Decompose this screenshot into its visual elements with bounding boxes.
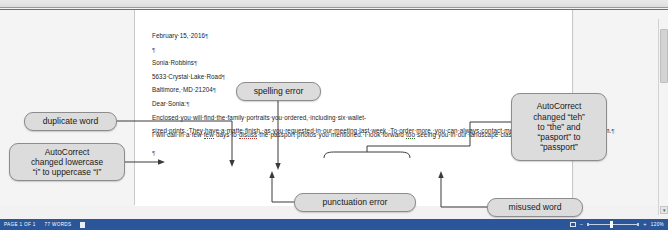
document-page[interactable]: February·15,·2016¶ ¶ Sonia·Robbins¶ 5633… (135, 10, 573, 206)
screenshot-root: February·15,·2016¶ ¶ Sonia·Robbins¶ 5633… (0, 0, 668, 230)
page-indicator[interactable]: PAGE 1 OF 1 (4, 222, 36, 227)
misspelled-word-text: disuss (239, 131, 257, 139)
pilcrow-icon: ¶ (213, 86, 216, 93)
callout-lowercase-i-line-1: AutoCorrect (31, 147, 103, 157)
callout-autocorrect-lowercase-i-body: AutoCorrect changed lowercase “i” to upp… (31, 147, 103, 178)
callout-spelling-error-label: spelling error (254, 86, 304, 96)
doc-paragraph-2: I·will·call·in·a·few·few·days·to·disuss·… (152, 128, 560, 142)
doc-paragraph-1: Enclosed·you·will·find·the·family·portra… (152, 111, 560, 125)
callout-duplicate-word-label: duplicate word (43, 116, 98, 126)
doc-paragraph-2-part-a: I·will·call·in·a·few· (152, 131, 204, 138)
pilcrow-icon: ¶ (222, 73, 225, 80)
zoom-in-button[interactable]: + (643, 222, 647, 227)
doc-line-recipient-name-text: Sonia·Robbins (152, 59, 194, 66)
status-bar-left-group: PAGE 1 OF 1 77 WORDS (0, 222, 85, 228)
pilcrow-icon: ¶ (152, 149, 155, 156)
doc-line-street: 5633·Crystal·Lake·Road¶ (152, 70, 566, 84)
doc-line-city-state-zip-text: Baltimore,·MD·21204 (152, 86, 213, 93)
scrollbar-thumb[interactable] (660, 29, 668, 83)
doc-line-recipient-name: Sonia·Robbins¶ (152, 56, 566, 70)
status-bar-right-group: − + 120% (570, 222, 668, 227)
doc-paragraph-2-part-c: ·the·passport·photos·you·mentioned.·I·lo… (257, 131, 406, 138)
zoom-slider-tick-left (587, 223, 589, 226)
callout-punctuation-error: punctuation error (294, 193, 416, 212)
doc-line-salutation-text: Dear·Sonia: (152, 100, 186, 107)
duplicate-word-text: few (204, 131, 214, 139)
doc-line-date-text: February·15,·2016 (152, 32, 205, 39)
callout-spelling-error: spelling error (236, 82, 321, 101)
pilcrow-icon: ¶ (205, 32, 208, 39)
doc-line-salutation: Dear·Sonia:¶ (152, 97, 566, 111)
doc-paragraph-2-part-b: ·days·to· (214, 131, 239, 138)
callout-autocorrect-teh-pasport: AutoCorrect changed “teh” to “the” and “… (511, 93, 607, 161)
word-count-indicator[interactable]: 77 WORDS (45, 222, 72, 227)
callout-punctuation-error-label: punctuation error (323, 197, 388, 207)
window-top-band (0, 0, 668, 8)
callout-autocorrect-line-2: changed “teh” (533, 112, 585, 122)
callout-autocorrect-teh-pasport-body: AutoCorrect changed “teh” to “the” and “… (533, 101, 585, 152)
misused-word-text: too (406, 131, 415, 139)
status-bar: PAGE 1 OF 1 77 WORDS − + 120% (0, 219, 668, 230)
reading-view-icon[interactable] (570, 222, 576, 227)
doc-line-city-state-zip: Baltimore,·MD·21204¶ (152, 83, 566, 97)
callout-autocorrect-line-4: “pasport” to (533, 132, 585, 142)
doc-line-date: February·15,·2016¶ (152, 29, 566, 43)
document-text-block[interactable]: February·15,·2016¶ ¶ Sonia·Robbins¶ 5633… (152, 29, 566, 159)
doc-line-street-text: 5633·Crystal·Lake·Road (152, 73, 222, 80)
doc-line-blank: ¶ (152, 43, 566, 57)
callout-duplicate-word: duplicate word (24, 112, 117, 131)
pilcrow-icon: ¶ (186, 100, 189, 107)
callout-autocorrect-line-3: to “the” and (533, 122, 585, 132)
zoom-slider[interactable] (587, 224, 639, 225)
zoom-percent-label[interactable]: 120% (651, 222, 664, 227)
callout-lowercase-i-line-3: “i” to uppercase “I” (31, 167, 103, 177)
callout-misused-word: misused word (487, 198, 583, 217)
vertical-scrollbar[interactable]: ▾ (658, 19, 668, 215)
callout-misused-word-label: misused word (508, 202, 561, 212)
zoom-slider-handle[interactable] (610, 221, 613, 228)
zoom-out-button[interactable]: − (580, 222, 584, 227)
zoom-slider-tick-right (637, 223, 639, 226)
callout-autocorrect-line-1: AutoCorrect (533, 101, 585, 111)
callout-autocorrect-lowercase-i: AutoCorrect changed lowercase “i” to upp… (9, 143, 125, 181)
proofing-errors-icon[interactable] (80, 222, 85, 228)
pilcrow-icon: ¶ (194, 59, 197, 66)
doc-line-trailing-pilcrow: ¶ (152, 146, 566, 160)
callout-lowercase-i-line-2: changed lowercase (31, 157, 103, 167)
callout-autocorrect-line-5: “passport” (533, 142, 585, 152)
pilcrow-icon: ¶ (611, 127, 614, 134)
pilcrow-icon: ¶ (152, 46, 155, 53)
chevron-down-icon[interactable]: ▾ (660, 206, 668, 214)
